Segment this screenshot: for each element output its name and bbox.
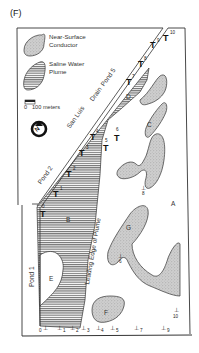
- marker-bottom-0-num: 0: [39, 329, 42, 334]
- transect-t6: T: [114, 134, 120, 143]
- marker-bottom-3-num: 3: [87, 329, 90, 334]
- region-e: E: [49, 276, 53, 283]
- transect-t1-num: 1: [60, 187, 63, 192]
- conductor-f: [92, 296, 124, 322]
- marker-bottom-1-num: 1: [63, 329, 66, 334]
- marker-mid-10-num: 10: [173, 315, 178, 320]
- transect-t8: T: [138, 60, 144, 69]
- scale-zero: 0: [24, 105, 27, 111]
- plume-legend-swatch: [24, 62, 46, 90]
- transect-t0-num: 0: [42, 205, 45, 210]
- marker-bottom-2: ⊥: [70, 325, 75, 331]
- transect-t5: T: [103, 144, 109, 153]
- marker-bottom-9: ⊥: [161, 325, 166, 331]
- conductor-c: [145, 103, 167, 138]
- legend-conductor-line1: Near-Surface: [49, 34, 86, 40]
- conductor-g: [108, 206, 180, 296]
- transect-t3b: T: [79, 149, 85, 158]
- pond-1-label: Pond 1: [29, 266, 36, 287]
- panel-label: (F): [10, 9, 22, 18]
- transect-t9-num: 9: [157, 39, 160, 44]
- transect-t4-num: 4: [96, 130, 99, 135]
- legend-conductor-line2: Conductor: [49, 42, 78, 48]
- marker-mid-8-num: 8: [142, 192, 145, 197]
- marker-bottom-5-num: 5: [116, 329, 119, 334]
- site-map: [0, 0, 199, 353]
- region-g: G: [126, 225, 131, 232]
- transect-t4: T: [90, 133, 96, 142]
- scale-label: 100 meters: [32, 105, 60, 111]
- transect-t7: T: [126, 78, 132, 87]
- marker-bottom-4-num: 4: [101, 329, 104, 334]
- transect-t9: T: [150, 41, 156, 50]
- transect-t2-num: 2: [73, 167, 76, 172]
- transect-t2: T: [66, 170, 72, 179]
- transect-t10-num: 10: [170, 31, 175, 36]
- marker-mid-6-num: 6: [119, 260, 122, 265]
- transect-t8-num: 8: [144, 57, 147, 62]
- marker-bottom-0: ⊥: [43, 325, 48, 331]
- transect-t6-num: 6: [116, 128, 119, 133]
- legend-plume-line1: Saline Water: [49, 61, 84, 67]
- transect-t10: T: [163, 34, 169, 43]
- legend-plume-line2: Plume: [49, 69, 67, 75]
- region-a: A: [171, 201, 175, 208]
- transect-t1: T: [53, 190, 59, 199]
- marker-mid-10: ⊥: [174, 307, 179, 313]
- conductor-legend-swatch: [24, 34, 45, 56]
- transect-t5-num: 5: [105, 139, 108, 144]
- marker-bottom-9-num: 9: [167, 329, 170, 334]
- marker-bottom-3: ⊥: [81, 325, 86, 331]
- marker-bottom-5: ⊥: [110, 325, 115, 331]
- marker-bottom-7-num: 7: [140, 329, 143, 334]
- transect-t3-num: 3: [86, 146, 89, 151]
- region-d: D: [126, 94, 131, 101]
- transect-t7-num: 7: [132, 75, 135, 80]
- marker-bottom-7: ⊥: [134, 325, 139, 331]
- marker-bottom-1: ⊥: [57, 325, 62, 331]
- region-f: F: [104, 310, 108, 317]
- region-b: B: [66, 217, 70, 224]
- transect-t0: T: [40, 210, 46, 219]
- region-c: C: [147, 122, 152, 129]
- marker-bottom-2-num: 2: [76, 329, 79, 334]
- conductor-mid: [117, 134, 165, 189]
